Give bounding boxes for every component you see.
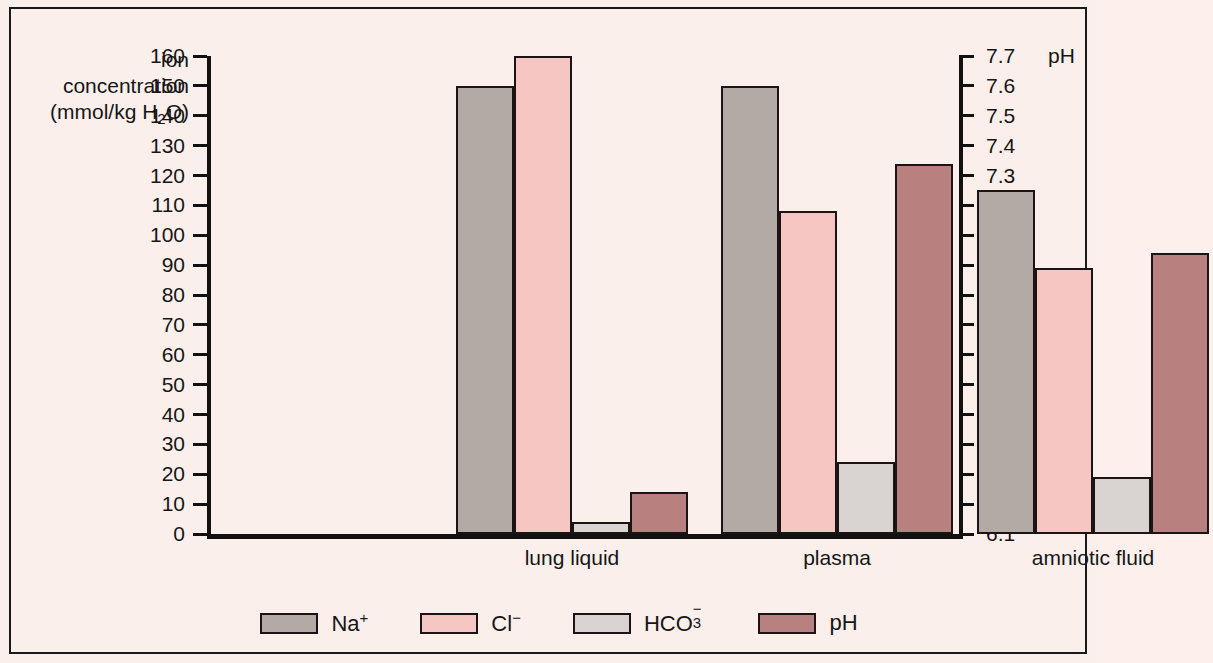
- left-tick: [193, 55, 207, 58]
- left-tick-label: 20: [101, 463, 185, 484]
- legend-swatch: [758, 613, 816, 634]
- bar[interactable]: [837, 462, 895, 534]
- left-tick-label: 70: [101, 314, 185, 335]
- legend-item[interactable]: HCO−3: [573, 609, 707, 637]
- category-label: amniotic fluid: [937, 546, 1213, 570]
- right-tick: [959, 443, 974, 446]
- right-tick: [959, 144, 974, 147]
- right-tick: [959, 473, 974, 476]
- right-tick: [959, 294, 974, 297]
- left-tick-label: 0: [101, 523, 185, 544]
- legend-label: pH: [829, 610, 857, 636]
- right-tick: [959, 234, 974, 237]
- left-tick-label: 10: [101, 493, 185, 514]
- legend-item[interactable]: Na+: [260, 609, 368, 637]
- legend-label: Cl−: [491, 609, 521, 637]
- left-tick-label: 60: [101, 344, 185, 365]
- bar[interactable]: [630, 492, 688, 534]
- legend-swatch: [420, 613, 478, 634]
- right-tick: [959, 503, 974, 506]
- left-tick: [193, 353, 207, 356]
- bar-group: [977, 56, 1209, 534]
- left-tick: [193, 533, 207, 536]
- chart-legend: Na+Cl−HCO−3pH: [11, 609, 1107, 637]
- left-tick-label: 120: [101, 165, 185, 186]
- bar[interactable]: [514, 56, 572, 534]
- bar[interactable]: [1151, 253, 1209, 534]
- left-tick: [193, 174, 207, 177]
- left-tick-label: 30: [101, 433, 185, 454]
- plot-area: 0102030405060708090100110120130140150160…: [207, 56, 959, 534]
- left-tick: [193, 234, 207, 237]
- left-tick: [193, 264, 207, 267]
- left-tick-label: 110: [101, 194, 185, 215]
- right-tick: [959, 114, 974, 117]
- left-tick-label: 150: [101, 75, 185, 96]
- left-tick: [193, 323, 207, 326]
- left-tick-label: 140: [101, 105, 185, 126]
- x-axis-line: [207, 534, 963, 539]
- bar-group: [721, 56, 953, 534]
- bar[interactable]: [572, 522, 630, 534]
- left-tick: [193, 204, 207, 207]
- bar[interactable]: [895, 164, 953, 534]
- right-tick: [959, 264, 974, 267]
- right-tick: [959, 323, 974, 326]
- left-tick: [193, 443, 207, 446]
- left-tick-label: 80: [101, 284, 185, 305]
- right-tick: [959, 204, 974, 207]
- left-tick: [193, 294, 207, 297]
- bar-group: [456, 56, 688, 534]
- right-tick: [959, 383, 974, 386]
- right-tick: [959, 533, 974, 536]
- right-tick: [959, 174, 974, 177]
- left-tick-label: 130: [101, 135, 185, 156]
- left-tick: [193, 473, 207, 476]
- left-tick: [193, 383, 207, 386]
- right-axis-line: [959, 56, 963, 537]
- legend-item[interactable]: Cl−: [420, 609, 521, 637]
- legend-label: HCO−3: [644, 609, 707, 637]
- bar[interactable]: [779, 211, 837, 534]
- left-tick-label: 160: [101, 45, 185, 66]
- chart-frame: ion concentration (mmol/kg H2O) pH 01020…: [9, 7, 1087, 654]
- bar[interactable]: [1035, 268, 1093, 534]
- left-tick: [193, 114, 207, 117]
- bar[interactable]: [977, 190, 1035, 534]
- legend-label: Na+: [331, 609, 368, 637]
- right-tick: [959, 413, 974, 416]
- left-tick-label: 100: [101, 224, 185, 245]
- bar[interactable]: [1093, 477, 1151, 534]
- left-tick-label: 50: [101, 374, 185, 395]
- legend-swatch: [573, 613, 631, 634]
- right-tick: [959, 353, 974, 356]
- left-tick: [193, 503, 207, 506]
- left-tick: [193, 144, 207, 147]
- left-tick-label: 40: [101, 404, 185, 425]
- legend-swatch: [260, 613, 318, 634]
- legend-item[interactable]: pH: [758, 610, 857, 636]
- right-tick: [959, 55, 974, 58]
- bar[interactable]: [721, 86, 779, 534]
- left-tick: [193, 84, 207, 87]
- left-tick-label: 90: [101, 254, 185, 275]
- right-tick: [959, 84, 974, 87]
- left-tick: [193, 413, 207, 416]
- bar[interactable]: [456, 86, 514, 534]
